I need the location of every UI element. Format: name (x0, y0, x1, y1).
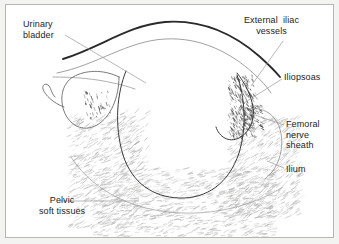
label-ilium-line-1: Ilium (286, 164, 306, 175)
bladder-tail-hook (43, 84, 64, 107)
leader-external-iliac-vessels (251, 41, 283, 86)
label-ilium: Ilium (286, 164, 306, 175)
label-pelvic-soft-tissues-line-1: Pelvic (39, 195, 85, 206)
label-iliopsoas-line-1: Iliopsoas (284, 72, 320, 83)
figure-frame: UrinarybladderExternal iliacvesselsIliop… (5, 4, 334, 238)
label-pelvic-soft-tissues: Pelvicsoft tissues (39, 195, 85, 216)
soft-tissue-hatching (67, 109, 304, 237)
label-external-iliac-vessels: External iliacvessels (244, 15, 299, 36)
label-femoral-nerve-sheath-line-3: sheath (286, 140, 320, 151)
label-femoral-nerve-sheath-line-2: nerve (286, 130, 320, 141)
label-urinary-bladder-line-2: bladder (23, 30, 54, 41)
label-femoral-nerve-sheath-line-1: Femoral (286, 119, 320, 130)
label-external-iliac-vessels-line-2: vessels (244, 26, 299, 37)
label-leader-lines (59, 35, 284, 201)
label-external-iliac-vessels-line-1: External iliac (244, 15, 299, 26)
label-urinary-bladder: Urinarybladder (23, 19, 54, 40)
label-femoral-nerve-sheath: Femoralnervesheath (286, 119, 320, 151)
urinary-bladder-outline (62, 71, 119, 128)
label-iliopsoas: Iliopsoas (284, 72, 320, 83)
label-pelvic-soft-tissues-line-2: soft tissues (39, 206, 85, 217)
pelvic-cavity-outline (118, 71, 245, 198)
label-urinary-bladder-line-1: Urinary (23, 19, 54, 30)
figure-root: UrinarybladderExternal iliacvesselsIliop… (0, 0, 339, 244)
abdominal-wall-inner-contour (57, 39, 271, 93)
